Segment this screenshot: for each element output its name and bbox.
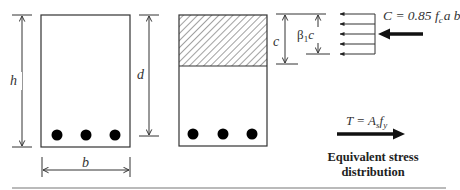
beam-outline — [41, 15, 130, 147]
caption-line-2: distribution — [318, 165, 428, 180]
uniform-stress-arrows — [340, 14, 375, 54]
neutral-axis-label: c — [273, 34, 280, 49]
compression-zone-hatch — [179, 15, 267, 66]
effective-depth-label: d — [137, 67, 145, 82]
caption-line-1: Equivalent stress — [318, 150, 428, 165]
figure-caption: Equivalent stress distribution — [318, 150, 428, 180]
tension-force-label: T = Asfy — [346, 113, 387, 130]
rebar-1 — [188, 129, 199, 140]
rebar-3 — [247, 129, 258, 140]
rebar-2 — [81, 130, 92, 141]
compression-resultant-arrow — [378, 29, 423, 40]
compression-force-label: C = 0.85 fca b — [383, 8, 460, 25]
height-label: h — [10, 73, 17, 88]
neutral-axis-dimension — [276, 14, 298, 64]
rebar-1 — [52, 130, 63, 141]
width-label: b — [82, 155, 89, 170]
rebar-2 — [218, 129, 229, 140]
beam-cross-section — [41, 15, 130, 147]
stress-block-section — [179, 15, 267, 146]
rebar-3 — [110, 130, 121, 141]
tension-resultant-arrow — [337, 129, 405, 140]
